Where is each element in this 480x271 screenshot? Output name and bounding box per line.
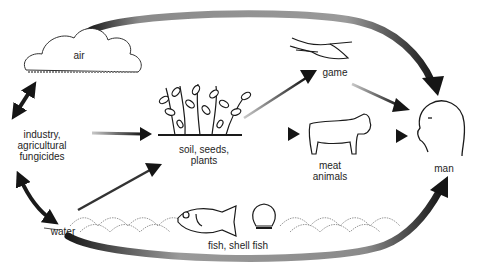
edge-air-to-man [88, 14, 444, 96]
label-industry: industry, agricultural fungicides [4, 129, 80, 162]
edge-water-to-soil [78, 163, 162, 210]
label-game: game [318, 67, 352, 78]
cow-meat-animals-icon [309, 114, 371, 154]
man-head-icon [418, 101, 465, 156]
edge-industry-to-soil [92, 127, 152, 141]
label-soil-seeds-plants: soil, seeds, plants [164, 144, 244, 166]
edge-game-to-man [352, 84, 410, 112]
label-man: man [426, 163, 462, 174]
bird-game-icon [290, 38, 352, 59]
shell-icon [253, 204, 276, 228]
edge-soil-to-meat [242, 127, 300, 141]
plants-icon [158, 84, 252, 135]
edge-industry-water [20, 178, 52, 220]
label-air: air [64, 50, 94, 61]
edge-soil-to-game [244, 70, 317, 118]
label-water: water [46, 226, 80, 237]
fish-icon [178, 206, 236, 236]
label-meat-animals: meat animals [300, 160, 360, 182]
edge-industry-air [16, 88, 32, 113]
label-fish-shell-fish: fish, shell fish [188, 240, 288, 251]
